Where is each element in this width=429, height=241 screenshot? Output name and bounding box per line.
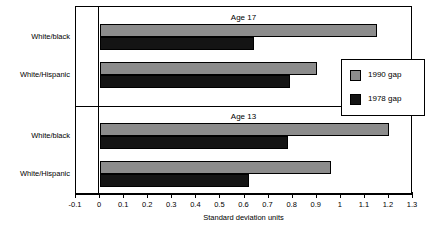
x-tick-label-0.2: 0.2 bbox=[142, 200, 152, 209]
x-tick-0.6 bbox=[244, 194, 245, 198]
bar-age-13-white-black-1990 bbox=[100, 123, 389, 136]
x-axis-title: Standard deviation units bbox=[75, 213, 412, 223]
x-tick--0.1 bbox=[75, 192, 76, 198]
panel-title-age-17: Age 17 bbox=[76, 13, 411, 23]
x-tick-label-1.1: 1.1 bbox=[359, 200, 369, 209]
x-tick-label-0.1: 0.1 bbox=[118, 200, 128, 209]
x-tick-label-0: 0 bbox=[97, 200, 101, 209]
x-tick-label-1: 1 bbox=[338, 200, 342, 209]
category-label-white-hispanic: White/Hispanic bbox=[20, 70, 70, 79]
x-tick-label-1.3: 1.3 bbox=[407, 200, 417, 209]
x-tick-1.1 bbox=[364, 194, 365, 198]
bar-age-17-white-hispanic-1978 bbox=[100, 75, 290, 88]
x-tick-1 bbox=[340, 194, 341, 198]
bar-age-17-white-black-1990 bbox=[100, 24, 377, 37]
category-label-white-black: White/black bbox=[31, 32, 70, 41]
x-tick-0.7 bbox=[268, 194, 269, 198]
x-tick-0 bbox=[99, 194, 100, 198]
zero-axis-line bbox=[98, 7, 99, 193]
category-label-white-black: White/black bbox=[31, 131, 70, 140]
x-tick-label-0.9: 0.9 bbox=[310, 200, 320, 209]
bar-age-17-white-hispanic-1990 bbox=[100, 62, 317, 75]
legend-label-1990-gap: 1990 gap bbox=[368, 70, 401, 80]
x-tick-0.2 bbox=[147, 194, 148, 198]
x-tick-0.1 bbox=[123, 194, 124, 198]
x-tick-label-1.2: 1.2 bbox=[383, 200, 393, 209]
x-tick-1.2 bbox=[388, 194, 389, 198]
x-tick-1.3 bbox=[412, 192, 413, 198]
bar-age-17-white-black-1978 bbox=[100, 37, 254, 50]
bar-age-13-white-hispanic-1978 bbox=[100, 174, 249, 187]
chart-legend: 1990 gap 1978 gap bbox=[341, 59, 425, 116]
x-tick-label-0.7: 0.7 bbox=[262, 200, 272, 209]
x-tick-label-0.8: 0.8 bbox=[286, 200, 296, 209]
legend-item-1978-gap: 1978 gap bbox=[350, 93, 401, 105]
x-tick-label-0.4: 0.4 bbox=[190, 200, 200, 209]
x-tick-0.3 bbox=[171, 194, 172, 198]
legend-item-1990-gap: 1990 gap bbox=[350, 69, 401, 81]
legend-label-1978-gap: 1978 gap bbox=[368, 94, 401, 104]
bar-age-13-white-black-1978 bbox=[100, 136, 288, 149]
x-tick-0.9 bbox=[316, 194, 317, 198]
x-tick-label-0.5: 0.5 bbox=[214, 200, 224, 209]
legend-swatch-1990-gap bbox=[350, 70, 361, 81]
x-tick-0.4 bbox=[195, 194, 196, 198]
x-tick-label-0.3: 0.3 bbox=[166, 200, 176, 209]
category-label-white-hispanic: White/Hispanic bbox=[20, 169, 70, 178]
x-tick-0.5 bbox=[219, 194, 220, 198]
x-tick-label-0.6: 0.6 bbox=[238, 200, 248, 209]
bar-chart-figure: Age 17 Age 13 Standard deviation units 1… bbox=[0, 0, 429, 241]
x-tick-label--0.1: -0.1 bbox=[69, 200, 82, 209]
x-tick-0.8 bbox=[292, 194, 293, 198]
bar-age-13-white-hispanic-1990 bbox=[100, 161, 331, 174]
legend-swatch-1978-gap bbox=[350, 94, 361, 105]
